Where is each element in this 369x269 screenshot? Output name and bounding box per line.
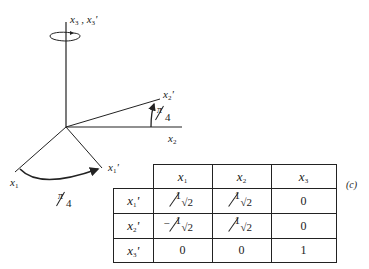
figure-caption: (c) [346,179,357,190]
x1-axis [15,127,66,172]
x2-prime-label: x2' [163,89,174,102]
row-header-x3-prime: x3' [114,239,154,263]
row-header-x2-prime: x2' [114,214,154,239]
cell-r1-c2: 1√2 [212,189,271,214]
angle-arc-lower [20,169,98,180]
x2-prime-axis [66,99,160,127]
col-header-x2: x2 [212,165,271,189]
cell-r2-c1: −1√2 [153,214,212,239]
direction-cosine-table: x1 x2 x3 x1' 1√2 1√2 0 x2' −1√2 1√2 0 x3… [113,164,337,263]
table-header-row: x1 x2 x3 [114,165,337,189]
cell-r3-c2: 0 [212,239,271,263]
cell-r1-c1: 1√2 [153,189,212,214]
x2-label: x2 [168,133,176,146]
table-row: x1' 1√2 1√2 0 [114,189,337,214]
col-header-x1: x1 [153,165,212,189]
x1-prime-axis [66,127,102,168]
table-row: x3' 0 0 1 [114,239,337,263]
cell-r2-c3: 0 [271,214,336,239]
angle-arc-upper [151,104,154,127]
x1-label: x1 [10,177,18,190]
table-row: x2' −1√2 1√2 0 [114,214,337,239]
x3-axis-label: x3 , x3' [70,14,97,27]
col-header-x3: x3 [271,165,336,189]
cell-r3-c1: 0 [153,239,212,263]
cell-r3-c3: 1 [271,239,336,263]
cell-r2-c2: 1√2 [212,214,271,239]
cell-r1-c3: 0 [271,189,336,214]
rotation-arrow-icon [50,32,80,41]
row-header-x1-prime: x1' [114,189,154,214]
